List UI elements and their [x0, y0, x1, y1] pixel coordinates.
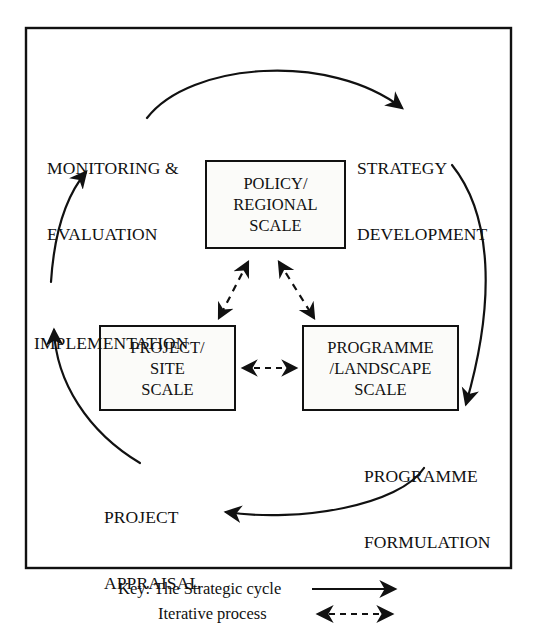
arc-monitoring-to-strategy: [147, 71, 402, 118]
label-monitoring-line-1: MONITORING &: [47, 157, 179, 179]
label-programme-formulation: PROGRAMME FORMULATION: [364, 421, 491, 597]
box-programme-line-1: PROGRAMME: [327, 337, 433, 358]
box-programme-line-3: SCALE: [354, 379, 406, 400]
label-monitoring-line-2: EVALUATION: [47, 223, 179, 245]
key-label-iterative-process: Iterative process: [158, 604, 267, 624]
label-project-appraisal-line-1: PROJECT: [104, 506, 200, 528]
label-implementation-line-1: IMPLEMENTATION: [34, 332, 189, 354]
label-strategy-line-2: DEVELOPMENT: [357, 223, 487, 245]
figure-canvas: POLICY/ REGIONAL SCALE PROJECT/ SITE SCA…: [0, 0, 540, 639]
label-strategy-line-1: STRATEGY: [357, 157, 487, 179]
box-policy-line-1: POLICY/: [243, 173, 307, 194]
box-policy-line-2: REGIONAL: [233, 194, 317, 215]
label-programme-formulation-line-1: PROGRAMME: [364, 465, 491, 487]
box-policy-line-3: SCALE: [249, 215, 301, 236]
dashed-link-policy-to-project-site: [219, 262, 248, 318]
box-programme-landscape-scale[interactable]: PROGRAMME /LANDSCAPE SCALE: [302, 325, 459, 411]
box-policy-regional-scale[interactable]: POLICY/ REGIONAL SCALE: [205, 160, 346, 249]
label-implementation: IMPLEMENTATION: [34, 288, 189, 398]
key-label-strategic-cycle: Key: The Strategic cycle: [118, 579, 281, 599]
label-strategy-development: STRATEGY DEVELOPMENT: [357, 113, 487, 289]
label-monitoring-evaluation: MONITORING & EVALUATION: [47, 113, 179, 289]
label-programme-formulation-line-2: FORMULATION: [364, 531, 491, 553]
box-programme-line-2: /LANDSCAPE: [330, 358, 432, 379]
dashed-link-policy-to-programme-landscape: [279, 262, 314, 318]
